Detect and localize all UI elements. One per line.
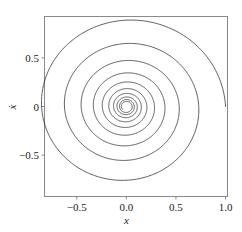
y-tick-label: −0.5 (0, 150, 39, 161)
x-axis-title: x (124, 215, 129, 226)
x-tick-label: 0.0 (119, 202, 133, 213)
y-tick-label: 0.5 (0, 52, 39, 63)
plot-canvas (0, 0, 242, 232)
phase-portrait-figure: −0.50.00.51.0 0.50−0.5 x ẋ (0, 0, 242, 232)
x-tick-label: −0.5 (67, 202, 87, 213)
x-tick-label: 1.0 (219, 202, 233, 213)
y-axis-title: ẋ (7, 104, 18, 109)
x-tick-label: 0.5 (169, 202, 183, 213)
